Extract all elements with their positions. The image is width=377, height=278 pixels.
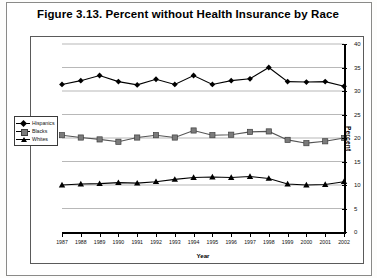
x-axis-tick-label: 1993: [169, 239, 181, 245]
x-axis-title: Year: [62, 252, 344, 259]
x-axis-tick-label: 2002: [338, 239, 350, 245]
diamond-marker: [153, 76, 159, 82]
square-marker: [153, 133, 158, 138]
y-axis-tick: [342, 44, 347, 45]
x-axis-tick-label: 1997: [244, 239, 256, 245]
screenshot-page: Figure 3.13. Percent without Health Insu…: [0, 0, 377, 278]
y-axis-tick-label: 25: [354, 112, 361, 118]
square-marker: [78, 135, 83, 140]
legend-item-label: Whites: [32, 136, 48, 142]
x-axis-tick-label: 1988: [75, 239, 87, 245]
x-axis-tick: [212, 232, 213, 237]
x-axis-tick: [344, 232, 345, 237]
diamond-marker: [228, 78, 234, 84]
x-axis-tick: [156, 232, 157, 237]
x-axis-tick-label: 1998: [263, 239, 275, 245]
square-marker: [285, 137, 290, 142]
y-axis-tick: [342, 115, 347, 116]
square-marker: [191, 128, 196, 133]
x-axis-tick: [137, 232, 138, 237]
y-axis-tick-label: 0: [354, 229, 357, 235]
y-axis-tick: [342, 209, 347, 210]
x-axis-tick-label: 1991: [131, 239, 143, 245]
y-axis-tick-label: 5: [354, 206, 357, 212]
x-axis-tick-label: 1992: [150, 239, 162, 245]
square-marker: [210, 133, 215, 138]
x-axis-tick: [306, 232, 307, 237]
diamond-marker: [210, 82, 216, 88]
data-series-layer: [62, 44, 344, 232]
square-marker: [247, 129, 252, 134]
x-axis-tick: [100, 232, 101, 237]
square-marker: [266, 129, 271, 134]
y-axis-tick-label: 35: [354, 65, 361, 71]
y-axis-tick: [342, 162, 347, 163]
diamond-marker: [304, 79, 310, 85]
y-axis-tick-label: 30: [354, 88, 361, 94]
plot-area: [62, 44, 344, 232]
x-axis-tick: [62, 232, 63, 237]
y-axis-title: Percent: [345, 126, 352, 151]
triangle-marker: [16, 135, 30, 143]
x-axis-tick-label: 1995: [207, 239, 219, 245]
diamond-marker: [16, 119, 30, 127]
square-marker: [304, 141, 309, 146]
x-axis-tick: [250, 232, 251, 237]
legend-item-blacks[interactable]: Blacks: [16, 127, 55, 135]
square-marker: [229, 132, 234, 137]
diamond-marker: [322, 79, 328, 85]
figure-title: Figure 3.13. Percent without Health Insu…: [6, 8, 370, 20]
square-marker: [97, 137, 102, 142]
diamond-marker: [172, 82, 178, 88]
x-axis-tick-label: 1996: [225, 239, 237, 245]
x-axis-tick-label: 2001: [319, 239, 331, 245]
x-axis-tick: [231, 232, 232, 237]
x-axis-tick-label: 2000: [301, 239, 313, 245]
square-marker: [135, 135, 140, 140]
x-axis-tick-label: 1989: [94, 239, 106, 245]
diamond-marker: [134, 82, 140, 88]
x-axis-tick: [269, 232, 270, 237]
y-axis-tick-label: 40: [354, 41, 361, 47]
series-hispanics: [59, 65, 347, 90]
diamond-marker: [247, 76, 253, 82]
y-axis-tick-label: 10: [354, 182, 361, 188]
diamond-marker: [191, 73, 197, 79]
y-axis-tick-label: 20: [354, 135, 361, 141]
x-axis-ticks: [62, 232, 344, 238]
x-axis-tick: [288, 232, 289, 237]
x-axis-tick-label: 1999: [282, 239, 294, 245]
x-axis-tick: [175, 232, 176, 237]
square-marker: [172, 135, 177, 140]
y-axis-tick: [342, 185, 347, 186]
y-axis-tick-label: 15: [354, 159, 361, 165]
x-axis-tick: [194, 232, 195, 237]
square-marker: [59, 133, 64, 138]
x-axis-tick-labels: 1987198819891990199119921993199419951996…: [36, 239, 366, 251]
legend-item-whites[interactable]: Whites: [16, 135, 55, 143]
legend-item-label: Hispanics: [32, 120, 55, 126]
y-axis-tick: [342, 68, 347, 69]
square-marker: [116, 139, 121, 144]
square-marker: [323, 139, 328, 144]
x-axis-tick: [118, 232, 119, 237]
x-axis-tick: [81, 232, 82, 237]
chart-legend: HispanicsBlacksWhites: [14, 116, 58, 146]
series-whites: [59, 173, 347, 187]
x-axis-tick: [325, 232, 326, 237]
x-axis-tick-label: 1987: [56, 239, 68, 245]
legend-item-hispanics[interactable]: Hispanics: [16, 119, 55, 127]
series-line: [62, 177, 344, 185]
series-line: [62, 130, 344, 143]
y-axis-tick: [342, 91, 347, 92]
x-axis-tick-label: 1994: [188, 239, 200, 245]
x-axis-tick-label: 1990: [113, 239, 125, 245]
series-line: [62, 68, 344, 87]
diamond-marker: [97, 73, 103, 79]
diamond-marker: [116, 79, 122, 85]
square-marker: [16, 127, 30, 135]
diamond-marker: [78, 78, 84, 84]
legend-item-label: Blacks: [32, 128, 47, 134]
series-blacks: [59, 128, 346, 146]
